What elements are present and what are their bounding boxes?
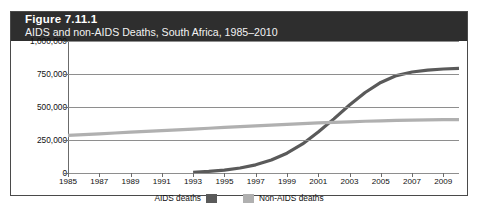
x-axis-label: 2003 [341,177,359,186]
y-axis-label: 500,000 [37,102,67,112]
x-axis-label: 1985 [59,177,77,186]
legend-entry: Non-AIDS deaths [243,193,324,203]
x-axis-label: 2001 [309,177,327,186]
y-axis-tick [64,107,68,108]
x-axis-label: 1993 [184,177,202,186]
figure-header: Figure 7.11.1 AIDS and non-AIDS Deaths, … [11,12,467,41]
legend-label: Non-AIDS deaths [259,193,324,203]
figure-card: Figure 7.11.1 AIDS and non-AIDS Deaths, … [10,11,468,196]
legend-swatch [206,194,217,203]
legend-swatch [243,194,254,203]
x-axis-label: 1987 [90,177,108,186]
x-axis-label: 2007 [403,177,421,186]
y-axis-tick [64,140,68,141]
x-axis-label: 1989 [122,177,140,186]
x-axis-label: 1991 [153,177,171,186]
x-axis-label: 2009 [434,177,452,186]
figure-number: Figure 7.11.1 [25,13,97,25]
x-axis-labels: 1985198719891991199319951997199920012003… [68,177,459,190]
legend-label: AIDS deaths [154,193,201,203]
legend-entry: AIDS deaths [154,193,217,203]
chart-legend: AIDS deathsNon-AIDS deaths [11,191,467,205]
x-axis-label: 1995 [215,177,233,186]
y-axis-labels: 0250,000500,000750,0001,000,000 [11,41,67,197]
chart-region: 0250,000500,000750,0001,000,000 19851987… [11,41,467,197]
x-axis-label: 1997 [247,177,265,186]
y-axis-tick [64,41,68,42]
x-axis-label: 1999 [278,177,296,186]
gridline [68,74,459,75]
series-line [68,120,459,136]
gridline [68,107,459,108]
plot-area [68,41,459,173]
y-axis-label: 1,000,000 [30,36,67,46]
gridline [68,41,459,42]
y-axis-label: 250,000 [37,135,67,145]
x-axis-label: 2005 [372,177,390,186]
y-axis-tick [64,74,68,75]
gridline [68,140,459,141]
y-axis-label: 750,000 [37,69,67,79]
